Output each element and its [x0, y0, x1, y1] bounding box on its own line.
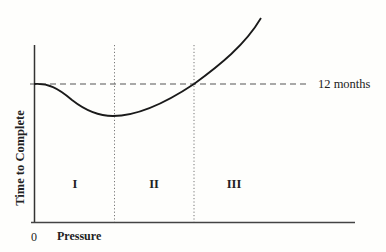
x-axis-label: Pressure	[57, 229, 102, 243]
region-label-i: I	[73, 177, 78, 191]
reference-label: 12 months	[318, 77, 371, 91]
origin-label: 0	[31, 230, 37, 244]
time-curve	[34, 18, 261, 116]
y-axis-label: Time to Complete	[13, 110, 27, 206]
region-label-ii: II	[149, 177, 159, 191]
region-label-iii: III	[227, 177, 242, 191]
pressure-time-diagram: Time to Complete 0 Pressure 12 months I …	[0, 0, 386, 252]
